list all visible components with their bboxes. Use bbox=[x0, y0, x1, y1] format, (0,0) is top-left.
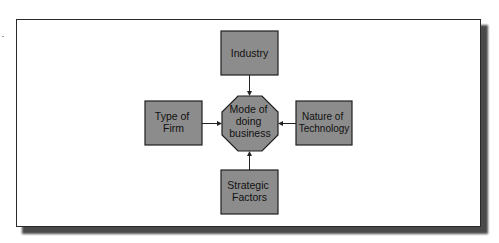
node-nature-of-technology-label: Nature of Technology bbox=[299, 111, 350, 134]
node-type-of-firm-line-2: Firm bbox=[163, 122, 184, 134]
arrowhead-nature-of-technology bbox=[278, 121, 283, 126]
node-mode-line-3: business bbox=[229, 127, 270, 139]
node-mode-line-2: doing bbox=[236, 115, 262, 127]
node-type-of-firm-line-1: Type of bbox=[155, 110, 190, 122]
node-nature-of-technology-line-1: Nature of bbox=[302, 111, 343, 122]
node-strategic-factors: Strategic Factors bbox=[221, 170, 278, 214]
node-mode-of-doing-business: Mode of doing business bbox=[222, 96, 278, 151]
arrowhead-strategic-factors bbox=[247, 151, 252, 156]
node-strategic-factors-label: Strategic Factors bbox=[227, 179, 271, 203]
node-mode-line-1: Mode of bbox=[230, 103, 268, 115]
node-strategic-factors-line-1: Strategic bbox=[227, 179, 268, 191]
node-industry-label: Industry bbox=[231, 47, 269, 59]
arrowhead-industry bbox=[247, 91, 252, 96]
node-industry-line-1: Industry bbox=[231, 47, 269, 59]
node-nature-of-technology-line-2: Technology bbox=[299, 123, 350, 134]
node-nature-of-technology: Nature of Technology bbox=[296, 101, 352, 145]
node-strategic-factors-line-2: Factors bbox=[232, 191, 267, 203]
node-type-of-firm: Type of Firm bbox=[145, 101, 202, 145]
influence-diagram: Industry Type of Firm Mode of doing busi… bbox=[0, 0, 499, 243]
arrowhead-type-of-firm bbox=[217, 121, 222, 126]
node-industry: Industry bbox=[221, 31, 278, 75]
